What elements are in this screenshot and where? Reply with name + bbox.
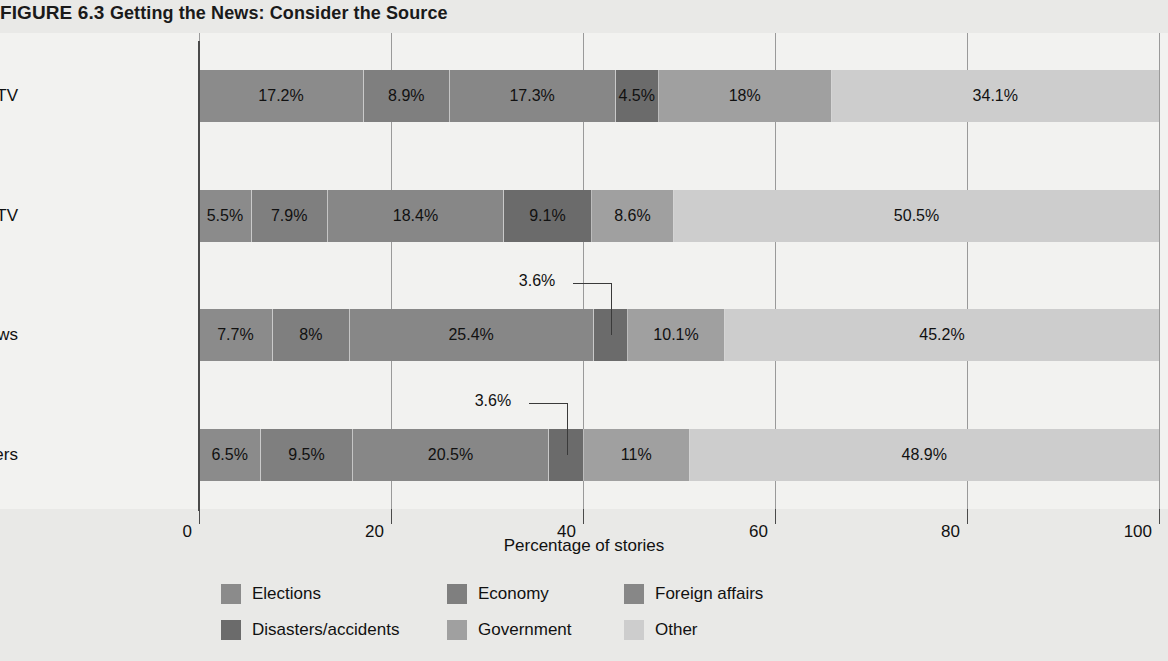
callout-leader-horizontal xyxy=(573,283,611,284)
bar-row: Newspapers6.5%9.5%20.5%11%48.9% xyxy=(0,429,1168,481)
legend-label: Disasters/accidents xyxy=(252,620,399,640)
bar-segment-government: 18% xyxy=(659,70,832,122)
chart-container: Cable TV17.2%8.9%17.3%4.5%18%34.1%Networ… xyxy=(0,33,1168,509)
row-label-newspapers: Newspapers xyxy=(0,429,30,481)
legend-swatch-icon xyxy=(447,584,467,604)
callout-value: 3.6% xyxy=(519,272,555,290)
legend-label: Other xyxy=(655,620,698,640)
bar-segment-foreign-affairs: 17.3% xyxy=(450,70,616,122)
legend-label: Elections xyxy=(252,584,321,604)
legend-swatch-icon xyxy=(447,620,467,640)
x-tick-100 xyxy=(1159,509,1160,524)
stacked-bar: 7.7%8%25.4%10.1%45.2% xyxy=(199,309,1159,361)
row-label-network-tv: Network TV xyxy=(0,190,30,242)
bar-segment-economy: 8.9% xyxy=(364,70,449,122)
legend-item: Disasters/accidents xyxy=(221,620,399,640)
bar-segment-other: 34.1% xyxy=(832,70,1159,122)
bar-segment-elections: 5.5% xyxy=(199,190,252,242)
legend-item: Elections xyxy=(221,584,321,604)
legend-item: Economy xyxy=(447,584,549,604)
bar-segment-other: 48.9% xyxy=(690,429,1159,481)
bar-segment-economy: 9.5% xyxy=(261,429,352,481)
page-title: FIGURE 6.3 Getting the News: Consider th… xyxy=(0,2,1168,30)
legend-swatch-icon xyxy=(624,620,644,640)
x-tick-60 xyxy=(775,509,776,524)
x-tick-80 xyxy=(967,509,968,524)
legend-swatch-icon xyxy=(221,584,241,604)
stacked-bar: 6.5%9.5%20.5%11%48.9% xyxy=(199,429,1159,481)
bar-segment-foreign-affairs: 25.4% xyxy=(350,309,594,361)
bar-segment-government: 10.1% xyxy=(628,309,725,361)
legend-item: Foreign affairs xyxy=(624,584,763,604)
legend-label: Government xyxy=(478,620,572,640)
bar-row: Cable TV17.2%8.9%17.3%4.5%18%34.1% xyxy=(0,70,1168,122)
bar-segment-economy: 7.9% xyxy=(252,190,328,242)
legend-label: Foreign affairs xyxy=(655,584,763,604)
plot-area: Cable TV17.2%8.9%17.3%4.5%18%34.1%Networ… xyxy=(199,33,1159,509)
callout-value: 3.6% xyxy=(475,392,511,410)
bar-segment-disasters-accidents: 9.1% xyxy=(504,190,591,242)
callout-leader-vertical xyxy=(567,403,568,455)
bar-segment-foreign-affairs: 20.5% xyxy=(353,429,550,481)
bar-segment-other: 50.5% xyxy=(674,190,1159,242)
x-tick-40 xyxy=(583,509,584,524)
figure-number: FIGURE 6.3 xyxy=(0,2,104,23)
bar-segment-elections: 6.5% xyxy=(199,429,261,481)
x-axis-title: Percentage of stories xyxy=(0,536,1168,556)
x-tick-20 xyxy=(391,509,392,524)
row-label-cable-tv: Cable TV xyxy=(0,70,30,122)
bar-segment-foreign-affairs: 18.4% xyxy=(328,190,505,242)
legend-label: Economy xyxy=(478,584,549,604)
x-tick-0 xyxy=(199,509,200,524)
bar-segment-government: 11% xyxy=(584,429,690,481)
legend-swatch-icon xyxy=(221,620,241,640)
legend: ElectionsEconomyForeign affairsDisasters… xyxy=(0,578,1168,661)
bar-segment-government: 8.6% xyxy=(592,190,675,242)
stacked-bar: 17.2%8.9%17.3%4.5%18%34.1% xyxy=(199,70,1159,122)
legend-item: Government xyxy=(447,620,572,640)
callout-leader-horizontal xyxy=(529,403,567,404)
bar-row: Network TV5.5%7.9%18.4%9.1%8.6%50.5% xyxy=(0,190,1168,242)
bar-segment-other: 45.2% xyxy=(725,309,1159,361)
bar-segment-disasters-accidents: 4.5% xyxy=(616,70,659,122)
bar-row: Online news7.7%8%25.4%10.1%45.2% xyxy=(0,309,1168,361)
row-label-online-news: Online news xyxy=(0,309,30,361)
bar-segment-elections: 17.2% xyxy=(199,70,364,122)
figure-caption: Getting the News: Consider the Source xyxy=(110,3,448,23)
legend-swatch-icon xyxy=(624,584,644,604)
callout-leader-vertical xyxy=(611,283,612,335)
stacked-bar: 5.5%7.9%18.4%9.1%8.6%50.5% xyxy=(199,190,1159,242)
legend-item: Other xyxy=(624,620,698,640)
bar-segment-elections: 7.7% xyxy=(199,309,273,361)
y-axis-line xyxy=(198,41,200,511)
bar-segment-economy: 8% xyxy=(273,309,350,361)
